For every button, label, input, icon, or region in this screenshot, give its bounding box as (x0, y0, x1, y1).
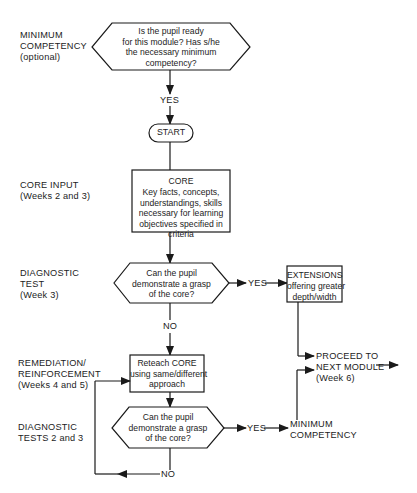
edge-label-no-diag1: NO (163, 321, 177, 332)
edge-label-yes-diag1: YES (248, 278, 267, 289)
flowchart-diagram: MINIMUM COMPETENCY (optional) CORE INPUT… (0, 0, 417, 493)
stage-label-core-input: CORE INPUT (Weeks 2 and 3) (20, 180, 90, 202)
extensions-body: offering greater depth/width (287, 281, 342, 302)
readiness-decision-text: Is the pupil ready for this module? Has … (92, 26, 250, 68)
minimum-competency-result: MINIMUM COMPETENCY (290, 419, 357, 441)
stage-label-remediation: REMEDIATION/ REINFORCEMENT (Weeks 4 and … (18, 358, 101, 391)
proceed-next-module: PROCEED TO NEXT MODULE (Week 6) (316, 351, 384, 384)
edge-label-yes-diag2: YES (247, 423, 266, 434)
reteach-text: Reteach CORE using same/different approa… (130, 358, 204, 390)
edge-label-no-diag2: NO (161, 469, 175, 480)
stage-label-diagnostic-test: DIAGNOSTIC TEST (Week 3) (20, 268, 79, 301)
diagnostic-decision-text: Can the pupil demonstrate a grasp of the… (114, 268, 229, 300)
diagnostic-decision-2-text: Can the pupil demonstrate a grasp of the… (112, 412, 224, 444)
stage-label-minimum-competency: MINIMUM COMPETENCY (optional) (20, 30, 87, 63)
extensions-title: EXTENSIONS (287, 270, 342, 281)
edge-label-yes-top: YES (160, 95, 179, 106)
start-node: START (149, 127, 193, 138)
core-title: CORE (132, 176, 230, 187)
core-body: Key facts, concepts, understandings, ski… (132, 187, 230, 240)
stage-label-diagnostic-tests-2-3: DIAGNOSTIC TESTS 2 and 3 (18, 422, 83, 444)
